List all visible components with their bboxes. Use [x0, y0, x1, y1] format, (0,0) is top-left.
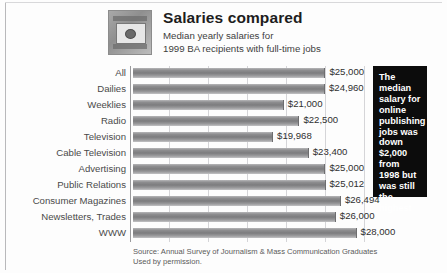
figure-left-rule — [5, 2, 6, 270]
source-note: Source: Annual Survey of Journalism & Ma… — [133, 247, 413, 266]
chart-subtitle-line-1: Median yearly salaries for — [163, 30, 273, 41]
bar — [133, 228, 357, 238]
bar-value-label: $25,000 — [329, 162, 364, 173]
bar — [133, 100, 284, 110]
bar-value-label: $24,960 — [329, 82, 364, 93]
camera-thumbnail-icon — [108, 10, 152, 55]
bar-row: $22,500 — [133, 114, 367, 130]
bar-row: $25,000 — [133, 162, 367, 178]
bar-value-label: $26,000 — [340, 210, 375, 221]
value-axis-line — [130, 66, 131, 242]
category-label: Consumer Magazines — [8, 194, 126, 210]
bar-row: $25,000 — [133, 66, 367, 82]
bar-row: $25,012 — [133, 178, 367, 194]
page-title: Salaries compared — [163, 9, 303, 27]
category-label: Newsletters, Trades — [8, 210, 126, 226]
category-label: Television — [8, 130, 126, 146]
bar-value-label: $25,000 — [329, 66, 364, 77]
callout-box: The median salary for online publishing … — [373, 66, 427, 197]
bar — [133, 212, 336, 222]
bar — [133, 164, 325, 174]
chart-header: Salaries compared Median yearly salaries… — [108, 9, 438, 59]
bar-value-label: $21,000 — [288, 98, 323, 109]
bar-row: $26,000 — [133, 210, 367, 226]
bar-value-label: $23,400 — [313, 146, 348, 157]
bar-row: $19,968 — [133, 130, 367, 146]
thumbnail-lens — [125, 29, 136, 39]
bar-row: $21,000 — [133, 98, 367, 114]
bar — [133, 196, 341, 206]
bar — [133, 180, 326, 190]
bar-value-label: $25,012 — [330, 178, 365, 189]
bar — [133, 116, 299, 126]
bar-row: $23,400 — [133, 146, 367, 162]
source-line-2: Used by permission. — [133, 257, 413, 267]
category-label: Public Relations — [8, 178, 126, 194]
category-label: Radio — [8, 114, 126, 130]
bar — [133, 84, 325, 94]
bar-value-label: $22,500 — [303, 114, 338, 125]
category-label: Dailies — [8, 82, 126, 98]
plot-area: $25,000$24,960$21,000$22,500$19,968$23,4… — [130, 66, 367, 242]
salaries-chart-figure: Salaries compared Median yearly salaries… — [0, 0, 447, 273]
category-label: Weeklies — [8, 98, 126, 114]
category-axis-labels: AllDailiesWeekliesRadioTelevisionCable T… — [8, 66, 126, 242]
category-label: All — [8, 66, 126, 82]
figure-top-rule — [5, 2, 442, 3]
bar-value-label: $28,000 — [361, 226, 396, 237]
category-label: Advertising — [8, 162, 126, 178]
bar — [133, 68, 325, 78]
thumbnail-band-bottom — [113, 44, 147, 49]
category-label: Cable Television — [8, 146, 126, 162]
bar — [133, 132, 273, 142]
bar-value-label: $19,968 — [277, 130, 312, 141]
bar-row: $26,494 — [133, 194, 367, 210]
thumbnail-band-top — [113, 16, 147, 21]
source-line-1: Source: Annual Survey of Journalism & Ma… — [133, 247, 413, 257]
bar-row: $24,960 — [133, 82, 367, 98]
category-label: WWW — [8, 226, 126, 242]
bar-rows: $25,000$24,960$21,000$22,500$19,968$23,4… — [133, 66, 367, 242]
bar-row: $28,000 — [133, 226, 367, 242]
bar — [133, 148, 309, 158]
chart-subtitle-line-2: 1999 BA recipients with full-time jobs — [163, 43, 321, 54]
